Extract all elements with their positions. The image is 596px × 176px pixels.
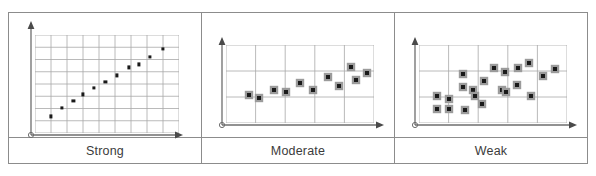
scatter-point: [49, 115, 52, 118]
scatter-point: [354, 78, 358, 82]
scatter-point: [284, 90, 288, 94]
panel-label-strong: Strong: [9, 138, 201, 163]
scatter-point: [72, 99, 75, 102]
scatter-point: [127, 66, 130, 69]
axes-moderate-svg: [202, 13, 394, 139]
scatter-point: [161, 47, 164, 50]
scatter-point: [447, 97, 451, 101]
scatter-point: [61, 106, 64, 109]
scatter-point: [529, 94, 533, 98]
scatter-point: [480, 102, 484, 106]
scatter-point: [115, 74, 118, 77]
scatter-point: [365, 71, 369, 75]
scatter-point: [482, 79, 486, 83]
scatter-point: [311, 88, 315, 92]
axes-weak-svg: [395, 13, 587, 139]
scatter-point: [81, 93, 84, 96]
axes-weak: [395, 13, 587, 137]
panel-weak: [394, 13, 587, 137]
scatter-point: [471, 88, 475, 92]
correlation-strength-figure: Strong Moderate Weak: [8, 12, 588, 164]
axes-moderate: [202, 13, 394, 137]
scatter-point: [149, 55, 152, 58]
scatter-point: [337, 84, 341, 88]
plot-row: [9, 13, 587, 137]
scatter-point: [473, 94, 477, 98]
scatter-point: [435, 94, 439, 98]
scatter-point: [461, 85, 465, 89]
panel-strong: [9, 13, 201, 137]
scatter-point: [504, 90, 508, 94]
scatter-point: [516, 66, 520, 70]
x-axis-arrowhead: [376, 122, 384, 129]
scatter-point: [326, 75, 330, 79]
scatter-point: [247, 93, 251, 97]
y-axis-arrowhead: [412, 37, 419, 45]
x-axis-arrowhead: [569, 122, 577, 129]
scatter-point: [527, 61, 531, 65]
scatter-point: [349, 65, 353, 69]
scatter-point: [298, 81, 302, 85]
panel-label-weak: Weak: [394, 138, 587, 163]
axes-strong-svg: [9, 13, 189, 139]
panel-moderate: [201, 13, 394, 137]
y-axis-arrowhead: [28, 21, 35, 29]
y-axis-arrowhead: [219, 37, 226, 45]
scatter-point: [447, 107, 451, 111]
scatter-point: [137, 63, 140, 66]
scatter-point: [541, 74, 545, 78]
scatter-point: [463, 108, 467, 112]
scatter-point: [272, 88, 276, 92]
scatter-point: [104, 80, 107, 83]
scatter-point: [503, 70, 507, 74]
scatter-point: [461, 72, 465, 76]
panel-label-row: Strong Moderate Weak: [9, 137, 587, 163]
panel-label-moderate: Moderate: [201, 138, 394, 163]
scatter-point: [492, 66, 496, 70]
x-axis-arrowhead: [175, 132, 183, 139]
axes-strong: [9, 13, 201, 137]
scatter-point: [257, 96, 261, 100]
scatter-point: [553, 67, 557, 71]
scatter-point: [515, 83, 519, 87]
scatter-point: [93, 87, 96, 90]
scatter-point: [435, 107, 439, 111]
